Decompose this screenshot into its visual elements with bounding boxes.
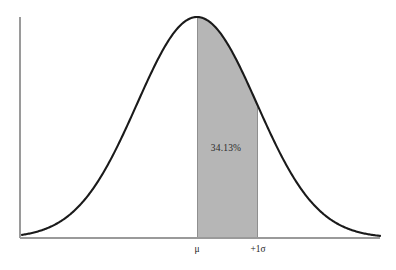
x-tick-label-mu: μ — [194, 244, 199, 254]
chart-canvas — [0, 0, 396, 270]
area-percentage-label: 34.13% — [211, 143, 242, 153]
shaded-area-34-percent — [197, 17, 257, 238]
normal-distribution-chart: 34.13% μ +1σ — [0, 0, 396, 270]
x-tick-label-plus-one-sigma: +1σ — [250, 244, 265, 254]
